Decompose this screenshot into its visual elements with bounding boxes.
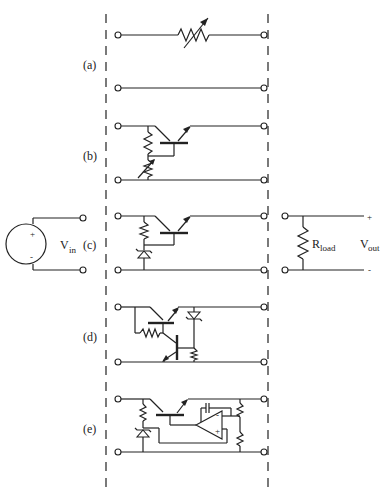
resistor-icon: [237, 432, 243, 446]
terminal-a-top-left: [115, 32, 121, 38]
vin-subscript: in: [69, 245, 77, 255]
terminal-a-bottom-left: [115, 85, 121, 91]
zener-diode-icon: [138, 251, 150, 258]
resistor-icon: [140, 222, 148, 239]
vout-plus: +: [367, 212, 372, 222]
zener-diode-icon: [188, 312, 200, 319]
op-amp-minus: -: [216, 410, 219, 420]
op-amp-plus: +: [215, 426, 220, 436]
vin-label: V: [60, 238, 69, 252]
variant-e: - + (e): [83, 396, 267, 455]
terminal-a-bottom-right: [261, 85, 267, 91]
label-e: (e): [83, 422, 96, 436]
source-minus-sign: -: [30, 252, 33, 262]
label-a: (a): [83, 58, 96, 72]
source-terminal-plus: [80, 215, 86, 221]
load-terminal-top: [282, 213, 288, 219]
label-b: (b): [83, 149, 97, 163]
vout-minus: -: [368, 265, 371, 275]
arrow-icon: [200, 18, 208, 26]
resistor-icon: [144, 132, 152, 154]
rload-label: R: [312, 237, 320, 251]
voltage-source-icon: [6, 224, 46, 264]
resistor-icon: [237, 403, 243, 417]
resistor-icon: [140, 329, 160, 337]
label-d: (d): [83, 330, 97, 344]
resistor-icon: [191, 348, 197, 360]
variant-a: (a): [83, 18, 267, 91]
variant-c: (c): [83, 213, 267, 273]
load-terminal-bottom: [282, 267, 288, 273]
label-c: (c): [83, 238, 96, 252]
variant-b: (b): [83, 123, 267, 183]
zener-diode-icon: [137, 430, 149, 437]
variant-d: (d): [83, 304, 267, 365]
variable-resistor-icon: [178, 29, 209, 41]
terminal-a-top-right: [261, 32, 267, 38]
load-resistor-icon: [298, 227, 308, 259]
regulator-diagram: (a) (b): [0, 0, 388, 494]
source-terminal-minus: [80, 267, 86, 273]
resistor-icon: [140, 404, 146, 421]
vout-subscript: out: [368, 243, 380, 253]
voltage-source: + - V in: [6, 215, 86, 273]
source-plus-sign: +: [30, 229, 35, 239]
load: R load V out + -: [282, 212, 380, 275]
rload-subscript: load: [320, 243, 336, 253]
